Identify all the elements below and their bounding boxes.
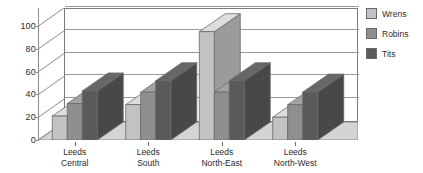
y-tick-label-20: 20 [26,112,36,122]
legend-label-wrens: Wrens [382,9,406,19]
legend-item-tits[interactable]: Tits [366,48,423,59]
x-axis-label-line: Leeds [255,147,335,158]
legend-swatch-robins [366,28,377,39]
y-tick-label-60: 60 [26,67,36,77]
legend-swatch-tits [366,48,377,59]
legend-item-robins[interactable]: Robins [366,28,423,39]
legend: WrensRobinsTits [366,8,423,68]
x-axis-label-line: Central [35,158,115,169]
x-tick-mark-4 [295,142,296,146]
gridline-100 [65,6,359,7]
plot-area [38,8,358,140]
x-axis-label-4: LeedsNorth-West [255,147,335,169]
y-tick-label-80: 80 [26,44,36,54]
bar-group-container [38,8,358,140]
x-axis-label-1: LeedsCentral [35,147,115,169]
x-axis-label-3: LeedsNorth-East [182,147,262,169]
bar-chart: 020406080100 LeedsCentralLeedsSouthLeeds… [0,0,423,173]
x-axis: LeedsCentralLeedsSouthLeedsNorth-EastLee… [38,142,358,173]
legend-swatch-wrens [366,8,377,19]
x-axis-label-line: South [108,158,188,169]
x-axis-label-line: North-West [255,158,335,169]
x-tick-mark-1 [75,142,76,146]
legend-label-robins: Robins [382,29,408,39]
x-axis-label-line: Leeds [182,147,262,158]
legend-label-tits: Tits [382,49,395,59]
y-axis: 020406080100 [10,0,36,173]
x-axis-label-line: North-East [182,158,262,169]
x-tick-mark-2 [148,142,149,146]
x-axis-label-line: Leeds [35,147,115,158]
y-tick-mark-0 [36,140,39,141]
x-axis-label-2: LeedsSouth [108,147,188,169]
y-tick-label-40: 40 [26,89,36,99]
y-tick-label-100: 100 [20,21,36,31]
x-axis-label-line: Leeds [108,147,188,158]
bar-tits-4 [38,8,358,140]
legend-item-wrens[interactable]: Wrens [366,8,423,19]
x-tick-mark-3 [222,142,223,146]
